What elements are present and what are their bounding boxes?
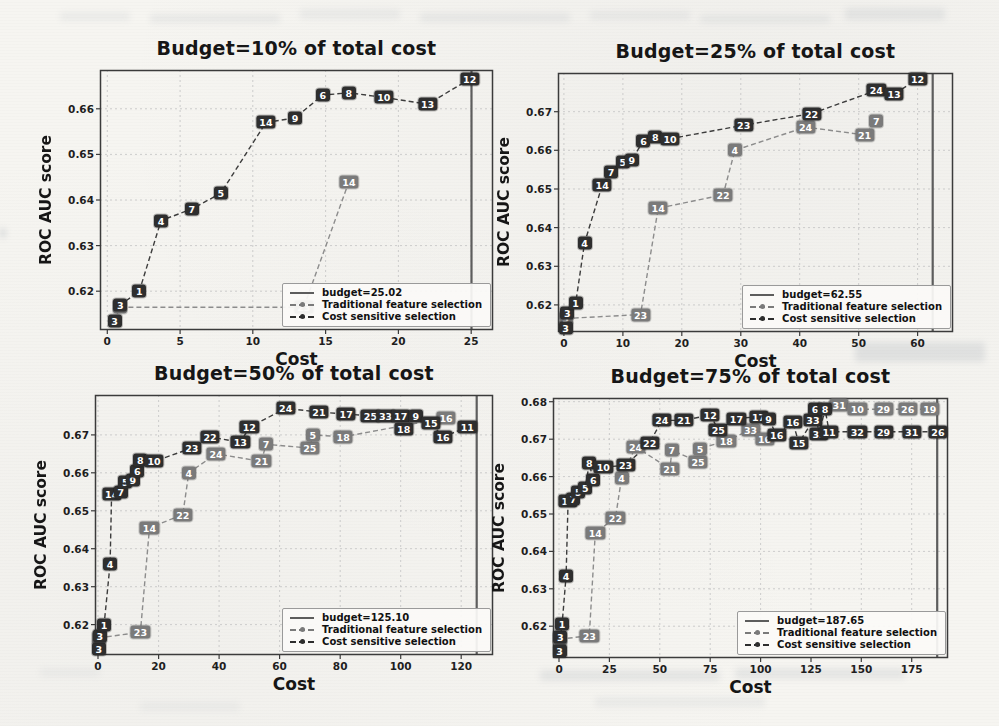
x-tick-label: 175 (901, 663, 923, 675)
x-tick-label: 5 (176, 335, 183, 347)
y-tick-label: 0.63 (521, 583, 547, 595)
legend-traditional-label: Traditional feature selection (782, 301, 942, 312)
y-tick-label: 0.63 (526, 260, 552, 272)
x-tick-label: 100 (750, 663, 772, 675)
budget-line-swatch (749, 289, 775, 300)
cost-sensitive-marker-swatch (289, 311, 315, 322)
data-point-label: 7 (869, 115, 883, 128)
data-point-label: 24 (796, 121, 815, 134)
legend-entry-traditional: Traditional feature selection (744, 627, 937, 638)
y-tick-label: 0.68 (521, 396, 547, 408)
data-point-label: 24 (206, 447, 225, 460)
x-tick-label: 20 (391, 335, 406, 347)
data-point-label: 18 (334, 430, 353, 443)
x-tick-label: 0 (560, 337, 567, 349)
subplot-budget-25: Budget=25% of total cost ROC AUC score C… (558, 73, 953, 332)
data-point-label: 13 (231, 436, 250, 449)
data-point-label: 17 (391, 409, 410, 422)
x-tick-label: 60 (910, 337, 925, 349)
data-point-label: 3 (113, 298, 127, 311)
data-point-label: 22 (173, 508, 192, 521)
data-point-label: 3 (93, 630, 107, 643)
x-tick-label: 150 (850, 663, 872, 675)
data-point-label: 10 (848, 403, 867, 416)
legend-entry-budget: budget=187.65 (744, 615, 937, 626)
data-point-label: 1 (569, 297, 583, 310)
x-tick-label: 125 (800, 663, 822, 675)
scan-artifact (845, 8, 945, 20)
x-axis-label: Cost (95, 674, 493, 694)
scan-artifact (140, 702, 240, 711)
chart-title: Budget=75% of total cost (533, 365, 968, 387)
legend-traditional-label: Traditional feature selection (322, 624, 482, 635)
data-point-label: 14 (256, 116, 275, 129)
y-tick-label: 0.64 (526, 222, 552, 234)
y-tick-label: 0.65 (63, 505, 89, 517)
legend-budget-label: budget=62.55 (782, 289, 862, 300)
data-point-label: 22 (640, 436, 659, 449)
data-point-label: 12 (460, 73, 479, 86)
budget-line-swatch (289, 612, 315, 623)
data-point-label: 23 (631, 308, 650, 321)
scan-artifact (700, 15, 830, 23)
data-point-label: 17 (337, 407, 356, 420)
x-tick-label: 0 (104, 335, 111, 347)
y-axis-label: ROC AUC score (489, 398, 509, 658)
data-point-label: 10 (660, 132, 679, 145)
data-point-label: 4 (728, 144, 742, 157)
data-point-label: 14 (586, 526, 605, 539)
legend-cost-sensitive-label: Cost sensitive selection (322, 311, 456, 322)
y-tick-label: 0.62 (526, 299, 552, 311)
legend: budget=125.10 Traditional feature select… (282, 608, 491, 652)
data-point-label: 4 (578, 237, 592, 250)
chart-title: Budget=25% of total cost (538, 40, 973, 62)
data-point-label: 22 (713, 188, 732, 201)
legend-entry-budget: budget=25.02 (289, 287, 482, 298)
chart-title: Budget=50% of total cost (75, 362, 513, 384)
data-point-label: 18 (394, 423, 413, 436)
x-tick-label: 80 (333, 660, 348, 672)
data-point-label: 15 (421, 417, 440, 430)
scan-artifact (0, 228, 6, 238)
y-tick-label: 0.62 (521, 620, 547, 632)
scan-artifact (590, 11, 690, 20)
cost-sensitive-marker-swatch (289, 636, 315, 647)
data-point-label: 3 (553, 644, 567, 657)
y-tick-label: 0.67 (521, 433, 547, 445)
data-point-label: 17 (727, 412, 746, 425)
data-point-label: 3 (553, 631, 567, 644)
legend: budget=62.55 Traditional feature selecti… (742, 285, 951, 329)
y-tick-label: 0.62 (68, 285, 94, 297)
data-point-label: 16 (767, 429, 786, 442)
legend-traditional-label: Traditional feature selection (322, 299, 482, 310)
data-point-label: 1 (132, 285, 146, 298)
data-point-label: 25 (300, 442, 319, 455)
data-point-label: 25 (688, 455, 707, 468)
data-point-label: 4 (154, 214, 168, 227)
scan-artifact (60, 12, 130, 21)
data-point-label: 24 (276, 402, 295, 415)
subplot-budget-75: Budget=75% of total cost ROC AUC score C… (553, 398, 948, 658)
data-point-label: 4 (182, 466, 196, 479)
data-point-label: 12 (701, 408, 720, 421)
x-tick-label: 10 (246, 335, 261, 347)
data-point-label: 16 (783, 416, 802, 429)
legend-budget-label: budget=125.10 (322, 612, 409, 623)
data-point-label: 5 (214, 187, 228, 200)
data-point-label: 24 (867, 84, 886, 97)
data-point-label: 21 (855, 128, 874, 141)
y-tick-label: 0.65 (521, 508, 547, 520)
data-point-label: 4 (103, 557, 117, 570)
data-point-label: 16 (433, 430, 452, 443)
legend-entry-cost-sensitive: Cost sensitive selection (289, 311, 482, 322)
y-tick-label: 0.67 (526, 106, 552, 118)
y-tick-label: 0.66 (68, 103, 94, 115)
y-tick-label: 0.64 (68, 194, 94, 206)
data-point-label: 14 (140, 521, 159, 534)
y-tick-label: 0.67 (63, 429, 89, 441)
data-point-label: 9 (762, 412, 776, 425)
data-point-label: 26 (928, 425, 947, 438)
data-point-label: 3 (92, 643, 106, 656)
data-point-label: 14 (649, 202, 668, 215)
legend-cost-sensitive-label: Cost sensitive selection (777, 639, 911, 650)
